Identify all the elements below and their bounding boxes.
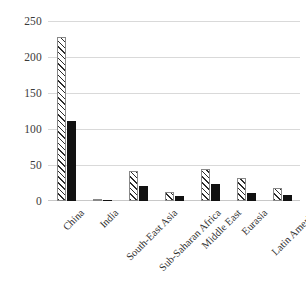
bar-group: [156, 21, 192, 201]
bar-group: [48, 21, 84, 201]
y-axis-tick-200: 200: [24, 51, 42, 63]
x-axis-label-slot: Eurasia: [228, 203, 264, 289]
bar-group: [120, 21, 156, 201]
x-axis-label-slot: China: [48, 203, 84, 289]
bar-groups: [48, 21, 300, 201]
bar-series-2: [139, 186, 148, 201]
y-axis-tick-0: 0: [36, 195, 42, 207]
bar-series-1: [273, 188, 282, 201]
bar-group: [192, 21, 228, 201]
bar-group: [84, 21, 120, 201]
bar-series-2: [67, 121, 76, 201]
bar-group: [264, 21, 300, 201]
bar-series-2: [175, 196, 184, 201]
x-axis-label: Latin America: [269, 207, 306, 257]
x-axis-label: China: [61, 207, 87, 233]
bar-series-1: [129, 171, 138, 201]
bar-series-1: [165, 192, 174, 201]
bar-series-1: [237, 178, 246, 201]
bar-group: [228, 21, 264, 201]
bar-chart: 250 200 150 100 50 0 ChinaIndiaSouth-Eas…: [0, 0, 306, 289]
x-axis-label: India: [98, 207, 121, 230]
x-axis-label-slot: Sub-Saharan Africa: [156, 203, 192, 289]
x-axis-label-slot: India: [84, 203, 120, 289]
bar-series-2: [247, 193, 256, 201]
y-axis-tick-100: 100: [24, 123, 42, 135]
y-axis-tick-150: 150: [24, 87, 42, 99]
y-axis-tick-labels: 250 200 150 100 50 0: [0, 21, 42, 201]
x-axis-label-slot: Middle East: [192, 203, 228, 289]
bar-series-1: [57, 37, 66, 201]
y-axis-tick-250: 250: [24, 15, 42, 27]
bar-series-2: [211, 184, 220, 201]
x-axis-category-labels: ChinaIndiaSouth-East AsiaSub-Saharan Afr…: [48, 203, 300, 289]
x-axis-label-slot: South-East Asia: [120, 203, 156, 289]
bar-series-1: [93, 199, 102, 201]
bar-series-1: [201, 169, 210, 201]
y-axis-tick-50: 50: [30, 159, 42, 171]
bar-series-2: [103, 200, 112, 201]
plot-area: [48, 21, 300, 201]
x-axis-label-slot: Latin America: [264, 203, 300, 289]
bar-series-2: [283, 195, 292, 201]
